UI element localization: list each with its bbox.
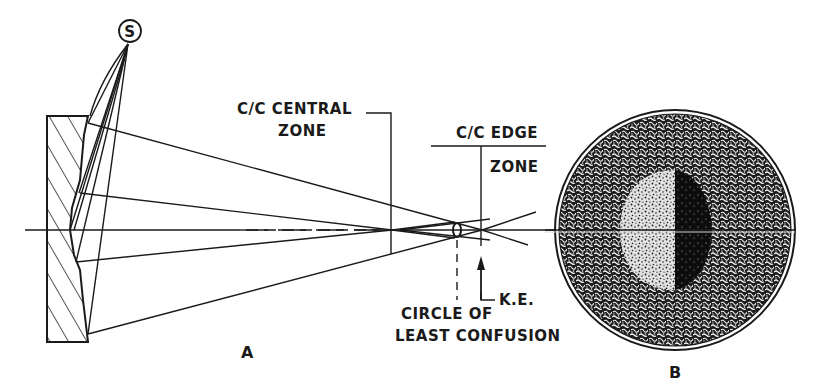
- central-zone-label-line2: ZONE: [278, 122, 326, 140]
- source-label: S: [124, 23, 135, 41]
- panel-b-label: B: [669, 363, 681, 382]
- circle-label-line2: LEAST CONFUSION: [395, 327, 561, 345]
- source-point: S: [119, 20, 141, 42]
- knife-edge-marker: [477, 256, 495, 300]
- panel-a: S: [25, 20, 561, 362]
- edge-zone-label-line2: ZONE: [490, 158, 538, 176]
- knife-edge-label: K.E.: [499, 291, 534, 309]
- circle-of-least-confusion-marker: [453, 223, 461, 300]
- edge-zone-rays: [88, 123, 536, 334]
- mirror-cross-section: [47, 116, 88, 342]
- optical-diagram: S: [0, 0, 815, 391]
- edge-zone-label-line1: C/C EDGE: [456, 124, 538, 142]
- panel-b-foucault-shadow: B: [545, 110, 795, 382]
- central-zone-label-line1: C/C CENTRAL: [237, 100, 352, 118]
- circle-label-line1: CIRCLE OF: [401, 305, 493, 323]
- panel-a-label: A: [241, 343, 254, 362]
